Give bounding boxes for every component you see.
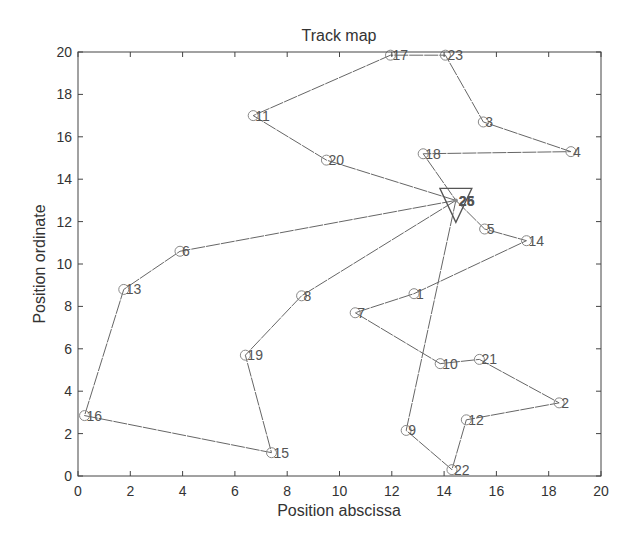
plot-area: 1234567891011121314151617181920212223252… <box>80 47 581 477</box>
node-label: 14 <box>528 233 544 249</box>
y-axis-ticks: 02468101214161820 <box>56 44 601 484</box>
node-label: 11 <box>255 108 270 124</box>
x-tick-label: 20 <box>593 483 609 499</box>
y-tick-label: 8 <box>64 298 72 314</box>
node-label: 7 <box>357 305 365 321</box>
y-tick-label: 20 <box>56 44 72 60</box>
y-tick-label: 12 <box>56 214 72 230</box>
chart-title: Track map <box>302 27 377 44</box>
node-label: 17 <box>392 47 408 63</box>
node-label: 23 <box>447 47 463 63</box>
x-axis-ticks: 02468101214161820 <box>74 52 609 499</box>
node-label: 2 <box>561 395 569 411</box>
node-label: 12 <box>468 412 484 428</box>
node-label: 8 <box>304 288 312 304</box>
x-tick-label: 18 <box>541 483 557 499</box>
node-label: 18 <box>425 146 441 162</box>
y-tick-label: 2 <box>64 426 72 442</box>
node-label: 13 <box>126 281 142 297</box>
node-label: 10 <box>442 356 458 372</box>
node-label: 20 <box>328 152 344 168</box>
route-line <box>253 55 571 200</box>
node-label: 21 <box>481 351 497 367</box>
node-label: 5 <box>487 221 495 237</box>
x-tick-label: 16 <box>489 483 505 499</box>
x-axis-label: Position abscissa <box>277 502 401 519</box>
y-tick-label: 4 <box>64 383 72 399</box>
route-line <box>85 200 456 452</box>
x-tick-label: 8 <box>283 483 291 499</box>
node-label: 4 <box>573 144 581 160</box>
node-label: 16 <box>87 408 103 424</box>
x-tick-label: 12 <box>384 483 400 499</box>
y-tick-label: 14 <box>56 171 72 187</box>
track-map-chart: Track map 123456789101112131415161718192… <box>0 0 640 543</box>
y-tick-label: 18 <box>56 86 72 102</box>
y-tick-label: 6 <box>64 341 72 357</box>
x-tick-label: 2 <box>126 483 134 499</box>
node-label: 19 <box>247 347 263 363</box>
depot-marker <box>454 198 458 202</box>
x-tick-label: 0 <box>74 483 82 499</box>
y-axis-label: Position ordinate <box>31 204 48 323</box>
node-label: 3 <box>485 114 493 130</box>
node-label: 6 <box>182 243 190 259</box>
node-label: 15 <box>274 445 290 461</box>
x-tick-label: 6 <box>231 483 239 499</box>
x-tick-label: 4 <box>179 483 187 499</box>
depot-label: 26 <box>459 193 475 209</box>
x-tick-label: 10 <box>332 483 348 499</box>
y-tick-label: 10 <box>56 256 72 272</box>
axes-box <box>78 52 601 476</box>
y-tick-label: 16 <box>56 129 72 145</box>
x-tick-label: 14 <box>436 483 452 499</box>
node-label: 22 <box>454 462 470 478</box>
node-label: 9 <box>408 422 416 438</box>
node-label: 1 <box>416 286 424 302</box>
y-tick-label: 0 <box>64 468 72 484</box>
